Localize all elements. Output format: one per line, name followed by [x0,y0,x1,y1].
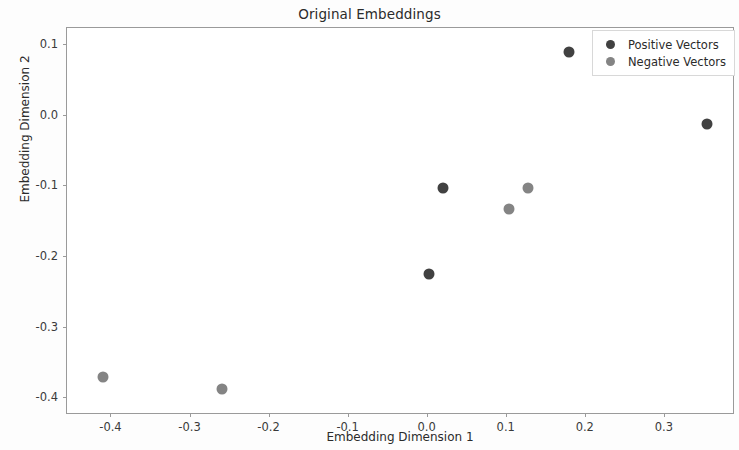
legend-item-label: Positive Vectors [628,38,719,52]
chart-legend: Positive VectorsNegative Vectors [592,30,735,76]
data-point [702,119,713,130]
x-axis-label: Embedding Dimension 1 [66,430,734,444]
legend-item[interactable]: Negative Vectors [599,53,726,70]
data-point [97,371,108,382]
legend-item[interactable]: Positive Vectors [599,36,726,53]
x-tick-mark [427,413,428,417]
x-tick-mark [585,413,586,417]
data-point [563,47,574,58]
legend-marker-icon [606,40,615,49]
x-tick-mark [664,413,665,417]
y-tick-label: -0.3 [36,320,58,334]
y-tick-mark [63,256,67,257]
x-tick-mark [506,413,507,417]
data-point [503,204,514,215]
y-tick-mark [63,115,67,116]
y-tick-mark [63,44,67,45]
y-tick-label: -0.2 [36,249,58,263]
y-tick-mark [63,397,67,398]
scatter-plot-figure: Original Embeddings -0.4-0.3-0.2-0.10.00… [0,0,739,450]
data-point [522,182,533,193]
plot-area: -0.4-0.3-0.2-0.10.00.10.20.30.10.0-0.1-0… [66,27,734,414]
y-tick-label: 0.1 [40,37,58,51]
y-tick-mark [63,185,67,186]
y-tick-label: 0.0 [40,108,58,122]
y-tick-mark [63,327,67,328]
x-tick-mark [190,413,191,417]
legend-marker-icon [606,57,615,66]
data-point [424,268,435,279]
y-axis-label: Embedding Dimension 2 [18,29,32,229]
legend-item-label: Negative Vectors [628,55,726,69]
x-tick-mark [348,413,349,417]
x-tick-mark [269,413,270,417]
y-tick-label: -0.1 [36,178,58,192]
y-tick-label: -0.4 [36,390,58,404]
x-tick-mark [110,413,111,417]
data-point [216,383,227,394]
page-title: Original Embeddings [0,6,739,22]
data-point [438,183,449,194]
